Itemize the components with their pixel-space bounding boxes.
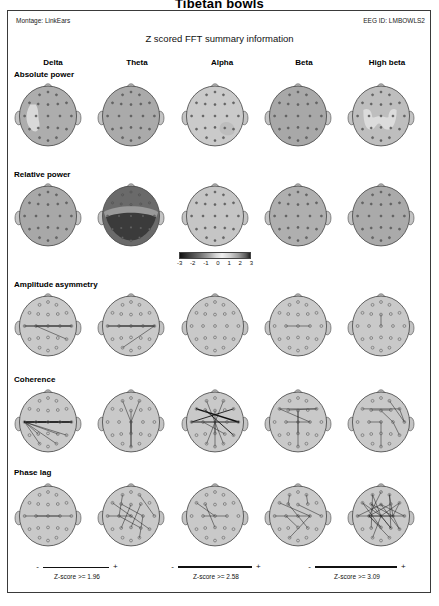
column-header-high-beta: High beta	[345, 58, 429, 67]
scale-tick: -1	[203, 260, 208, 266]
headmap-phase-lag-alpha	[178, 482, 252, 550]
column-header-beta: Beta	[262, 58, 346, 67]
headmap-absolute-power-alpha	[178, 82, 252, 150]
z-legend-plus: +	[113, 563, 118, 571]
report-subtitle: Z scored FFT summary information	[0, 33, 439, 44]
z-legend-minus: -	[36, 563, 39, 571]
z-legend-bar	[315, 566, 397, 568]
headmap-amplitude-asymmetry-delta	[11, 292, 85, 360]
scale-tick: 1	[227, 260, 230, 266]
scale-tick: 3	[250, 260, 253, 266]
headmap-phase-lag-high-beta	[344, 482, 418, 550]
color-scale-bar	[179, 252, 251, 259]
scale-tick: -3	[177, 260, 182, 266]
z-legend-label: Z-score >= 3.09	[292, 573, 422, 580]
headmap-relative-power-high-beta	[344, 182, 418, 250]
headmap-coherence-high-beta	[344, 388, 418, 456]
headmap-relative-power-beta	[261, 182, 335, 250]
headmap-amplitude-asymmetry-high-beta	[344, 292, 418, 360]
headmap-relative-power-delta	[11, 182, 85, 250]
z-legend-minus: -	[171, 563, 174, 571]
scale-tick: -2	[190, 260, 195, 266]
color-scale-ticks: -3 -2 -1 0 1 2 3	[177, 260, 253, 266]
z-legend-196: - + Z-score >= 1.96	[22, 563, 132, 580]
z-legend-bar	[178, 566, 252, 567]
column-header-theta: Theta	[95, 58, 179, 67]
eeg-id-label: EEG ID: LMBOWLS2	[363, 17, 425, 24]
z-legend-309: - + Z-score >= 3.09	[292, 563, 422, 580]
z-legend-label: Z-score >= 2.58	[155, 573, 277, 580]
z-legend-258: - + Z-score >= 2.58	[155, 563, 277, 580]
report-page: Tibetan bowls Montage: LinkEars EEG ID: …	[0, 0, 439, 606]
headmap-absolute-power-beta	[261, 82, 335, 150]
headmap-amplitude-asymmetry-alpha	[178, 292, 252, 360]
row-label-coherence: Coherence	[14, 375, 55, 384]
montage-label: Montage: LinkEars	[16, 17, 70, 24]
headmap-phase-lag-theta	[94, 482, 168, 550]
column-header-delta: Delta	[11, 58, 95, 67]
headmap-phase-lag-delta	[11, 482, 85, 550]
headmap-coherence-theta	[94, 388, 168, 456]
z-legend-plus: +	[401, 563, 406, 571]
headmap-relative-power-alpha	[178, 182, 252, 250]
headmap-coherence-beta	[261, 388, 335, 456]
row-label-relative-power: Relative power	[14, 170, 70, 179]
headmap-absolute-power-high-beta	[344, 82, 418, 150]
headmap-absolute-power-theta	[94, 82, 168, 150]
scale-tick: 0	[216, 260, 219, 266]
z-legend-minus: -	[308, 563, 311, 571]
z-legend-label: Z-score >= 1.96	[22, 573, 132, 580]
color-scale: -3 -2 -1 0 1 2 3	[179, 252, 251, 266]
row-label-absolute-power: Absolute power	[14, 70, 74, 79]
z-legend-bar	[43, 567, 109, 568]
headmap-coherence-delta	[11, 388, 85, 456]
headmap-relative-power-theta	[94, 182, 168, 250]
row-label-phase-lag: Phase lag	[14, 468, 51, 477]
headmap-amplitude-asymmetry-beta	[261, 292, 335, 360]
scale-tick: 2	[239, 260, 242, 266]
z-legend-plus: +	[256, 563, 261, 571]
headmap-coherence-alpha	[178, 388, 252, 456]
row-label-amplitude-asymmetry: Amplitude asymmetry	[14, 280, 98, 289]
headmap-phase-lag-beta	[261, 482, 335, 550]
column-header-alpha: Alpha	[180, 58, 264, 67]
headmap-amplitude-asymmetry-theta	[94, 292, 168, 360]
headmap-absolute-power-delta	[11, 82, 85, 150]
